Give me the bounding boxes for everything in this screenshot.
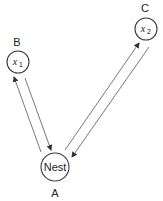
node-c-var: x bbox=[140, 23, 146, 34]
edge-nest-to-b bbox=[14, 77, 41, 152]
node-a-nest: Nest A bbox=[41, 153, 69, 199]
node-c-circle bbox=[135, 18, 157, 40]
node-b-subscript: 1 bbox=[19, 61, 23, 68]
node-c: C x 2 bbox=[135, 2, 157, 40]
edge-nest-to-c bbox=[65, 43, 139, 150]
node-b-circle bbox=[7, 51, 29, 73]
diagram-canvas: B x 1 C x 2 Nest A bbox=[0, 0, 163, 201]
edge-b-to-nest bbox=[25, 78, 51, 150]
node-c-label: C bbox=[141, 2, 149, 14]
node-a-label: A bbox=[51, 187, 59, 199]
nest-text: Nest bbox=[44, 161, 67, 173]
node-b: B x 1 bbox=[7, 36, 29, 73]
node-b-label: B bbox=[13, 36, 20, 48]
edge-c-to-nest bbox=[72, 47, 149, 157]
node-c-subscript: 2 bbox=[147, 28, 151, 35]
node-b-var: x bbox=[12, 56, 18, 67]
